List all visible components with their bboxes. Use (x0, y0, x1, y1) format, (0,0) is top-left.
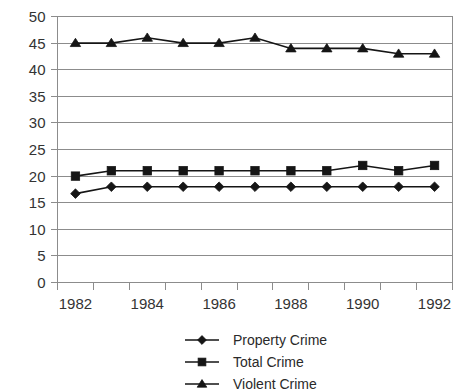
y-tick-label-45: 45 (29, 35, 46, 52)
y-tick-label-15: 15 (29, 194, 46, 211)
marker-square (287, 167, 295, 175)
y-tick-label-10: 10 (29, 221, 46, 238)
x-tick-label-1992: 1992 (418, 295, 451, 312)
marker-square (179, 167, 187, 175)
marker-square (71, 172, 79, 180)
x-tick-label-1986: 1986 (202, 295, 235, 312)
marker-square (143, 167, 151, 175)
legend-label: Violent Crime (233, 376, 317, 391)
line-chart: 05101520253035404550 1982198419861988199… (0, 0, 476, 391)
marker-square (394, 167, 402, 175)
y-tick-label-25: 25 (29, 141, 46, 158)
chart-container: 05101520253035404550 1982198419861988199… (0, 0, 476, 391)
y-tick-label-50: 50 (29, 8, 46, 25)
x-tick-label-1990: 1990 (346, 295, 379, 312)
y-tick-label-30: 30 (29, 114, 46, 131)
y-tick-label-0: 0 (37, 274, 45, 291)
x-tick-label-1982: 1982 (59, 295, 92, 312)
y-tick-label-35: 35 (29, 88, 46, 105)
marker-square (323, 167, 331, 175)
x-tick-label-1984: 1984 (131, 295, 164, 312)
marker-square (198, 358, 206, 366)
marker-square (107, 167, 115, 175)
marker-square (359, 161, 367, 169)
legend-label: Property Crime (233, 332, 327, 348)
x-tick-label-1988: 1988 (274, 295, 307, 312)
marker-square (215, 167, 223, 175)
legend-label: Total Crime (233, 354, 304, 370)
marker-square (251, 167, 259, 175)
y-tick-label-5: 5 (37, 247, 45, 264)
y-tick-label-20: 20 (29, 168, 46, 185)
marker-square (430, 161, 438, 169)
y-tick-label-40: 40 (29, 61, 46, 78)
